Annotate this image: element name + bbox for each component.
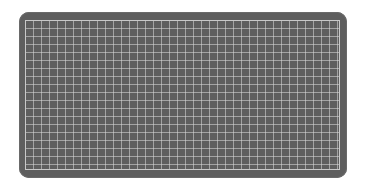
cutting-mat	[19, 12, 347, 178]
grid-lines	[25, 20, 340, 170]
